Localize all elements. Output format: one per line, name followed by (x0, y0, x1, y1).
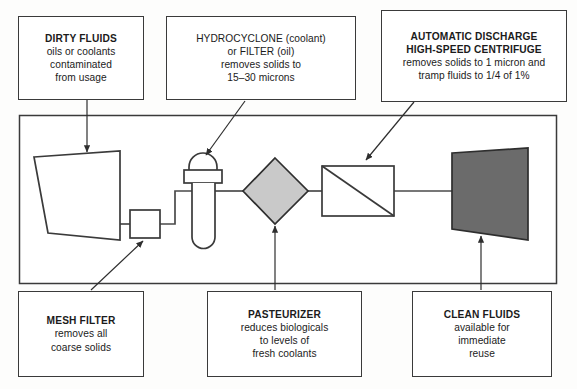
hydrocyclone-collar (184, 170, 222, 183)
callout-clean-fluids-line4: reuse (469, 347, 495, 360)
callout-hydrocyclone-line1: HYDROCYCLONE (coolant) (196, 32, 326, 45)
callout-centrifuge: AUTOMATIC DISCHARGE HIGH-SPEED CENTRIFUG… (381, 10, 567, 102)
callout-pasteurizer-line4: fresh coolants (252, 347, 316, 360)
callout-pasteurizer-line3: to levels of (260, 334, 309, 347)
callout-mesh-filter: MESH FILTER removes all coarse solids (18, 291, 144, 377)
diagram-canvas: DIRTY FLUIDS oils or coolants contaminat… (0, 0, 577, 389)
callout-centrifuge-line1: AUTOMATIC DISCHARGE (411, 30, 538, 43)
callout-clean-fluids: CLEAN FLUIDS available for immediate reu… (412, 291, 552, 377)
callout-mesh-filter-line3: coarse solids (51, 341, 111, 354)
callout-pasteurizer-line1: PASTEURIZER (248, 308, 321, 321)
callout-dirty-fluids-line2: oils or coolants (47, 45, 116, 58)
mesh-filter-unit (130, 210, 160, 238)
callout-pasteurizer: PASTEURIZER reduces biologicals to level… (207, 291, 362, 377)
hydrocyclone-dome (189, 153, 217, 172)
callout-pasteurizer-line2: reduces biologicals (241, 321, 329, 334)
callout-hydrocyclone-line2: or FILTER (oil) (228, 45, 295, 58)
callout-dirty-fluids-line1: DIRTY FLUIDS (45, 32, 117, 45)
heat-exchanger-unit (322, 166, 394, 216)
callout-dirty-fluids-line3: contaminated (50, 58, 112, 71)
callout-hydrocyclone: HYDROCYCLONE (coolant) or FILTER (oil) r… (166, 16, 356, 100)
callout-centrifuge-line4: tramp fluids to 1/4 of 1% (418, 69, 529, 82)
hydrocyclone-body (192, 183, 215, 249)
callout-clean-fluids-line1: CLEAN FLUIDS (444, 308, 521, 321)
callout-clean-fluids-line2: available for (454, 321, 510, 334)
callout-clean-fluids-line3: immediate (458, 334, 505, 347)
callout-centrifuge-line2: HIGH-SPEED CENTRIFUGE (406, 43, 542, 56)
callout-dirty-fluids-line4: from usage (55, 71, 106, 84)
callout-centrifuge-line3: removes solids to 1 micron and (403, 56, 546, 69)
callout-hydrocyclone-line4: 15–30 microns (227, 71, 294, 84)
centrifuge-unit (452, 148, 528, 240)
callout-dirty-fluids: DIRTY FLUIDS oils or coolants contaminat… (18, 16, 144, 100)
callout-hydrocyclone-line3: removes solids to (221, 58, 301, 71)
callout-mesh-filter-line1: MESH FILTER (47, 314, 116, 327)
callout-mesh-filter-line2: removes all (55, 327, 108, 340)
dirty-fluid-tank (34, 151, 120, 240)
